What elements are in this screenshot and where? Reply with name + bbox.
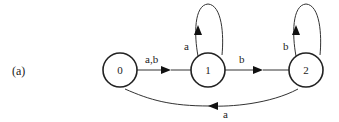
transition-1-to-2: b [225,53,289,74]
arrowhead-icon [253,66,263,74]
figure-label: (a) [12,64,25,78]
arrowhead-icon [208,102,218,110]
transition-label-1-2: b [239,53,245,65]
automaton-diagram: (a) a,b b a b a 0 1 2 [0,0,339,122]
arrowhead-icon [161,66,171,74]
transition-2-self-loop: b [283,4,321,56]
transition-label-0-1: a,b [145,53,159,65]
state-0: 0 [103,53,137,87]
transition-0-to-1: a,b [137,53,191,74]
state-2: 2 [289,53,323,87]
state-1: 1 [191,53,225,87]
state-label-0: 0 [117,64,123,76]
state-label-2: 2 [303,64,309,76]
transition-label-2-0: a [223,108,228,120]
transition-1-self-loop: a [184,4,223,56]
transition-2-to-0: a [125,89,298,120]
transition-label-1-1: a [184,40,189,52]
transition-label-2-2: b [283,40,289,52]
state-label-1: 1 [205,64,211,76]
